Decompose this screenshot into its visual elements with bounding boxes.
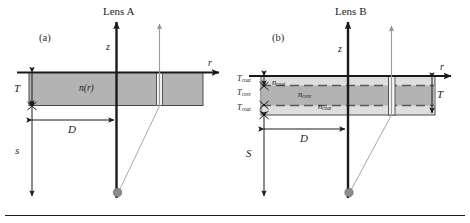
- n-coat-bottom-sub: coat: [322, 105, 331, 111]
- T-core-sub: core: [242, 91, 251, 97]
- panel-a-graphics: [17, 22, 219, 198]
- lens-b-ray-oblique: [351, 115, 392, 191]
- T-coat-bottom-sub: coat: [242, 106, 251, 112]
- panel-b-tag: (b): [272, 33, 284, 44]
- lens-b-coat-bottom-label: ncoat: [318, 102, 331, 112]
- lens-a-r-axis-label: r: [208, 58, 212, 68]
- lens-b-r-axis-label: r: [440, 62, 444, 72]
- lens-b-distance-label: S: [246, 148, 252, 159]
- n-core-sub: core: [302, 93, 311, 99]
- lens-a-z-axis-label: z: [106, 42, 110, 52]
- lens-a-ray-oblique: [119, 106, 160, 191]
- lens-a-distance-label: s: [15, 145, 19, 156]
- lens-b-title: Lens B: [335, 6, 366, 17]
- panel-a-tag: (a): [39, 33, 51, 44]
- lens-a-point-source: [113, 188, 121, 196]
- figure-bottom-rule: [5, 215, 465, 216]
- optics-figure: Lens A (a) z r n(r) T D s Lens B (b) z r…: [0, 0, 470, 223]
- lens-b-diameter-label: D: [300, 133, 308, 144]
- lens-b-Tcoat-bottom-label: Tcoat: [237, 103, 251, 113]
- panel-b-graphics: [249, 22, 451, 198]
- n-coat-top-sub: coat: [276, 81, 285, 87]
- lens-b-Tcoat-top-label: Tcoat: [237, 74, 251, 84]
- lens-b-coat-top-label: ncoat: [272, 78, 285, 88]
- lens-a-material-label: n(r): [79, 84, 94, 94]
- lens-a-title: Lens A: [103, 6, 134, 17]
- figure-canvas: [0, 0, 470, 223]
- lens-b-core-label: ncore: [298, 90, 311, 100]
- T-coat-top-sub: coat: [242, 77, 251, 83]
- lens-a-diameter-label: D: [68, 124, 76, 135]
- lens-a-thickness-label: T: [14, 83, 20, 94]
- lens-b-thickness-label: T: [437, 89, 443, 100]
- lens-b-point-source: [345, 188, 353, 196]
- lens-b-z-axis-label: z: [338, 44, 342, 54]
- lens-b-Tcore-label: Tcore: [237, 88, 251, 98]
